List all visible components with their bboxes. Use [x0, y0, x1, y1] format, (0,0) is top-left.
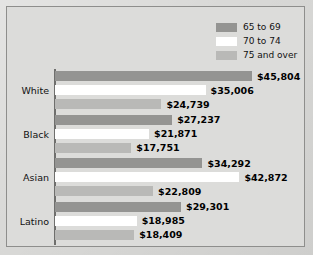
legend-label: 65 to 69 — [243, 22, 281, 33]
chart-legend: 65 to 6970 to 7475 and over — [216, 21, 313, 63]
bar-value-label: $18,409 — [139, 230, 182, 240]
legend-swatch — [216, 23, 237, 32]
bar-value-label: $17,751 — [136, 143, 179, 153]
chart-frame: 65 to 6970 to 7475 and over $45,804$35,0… — [6, 6, 305, 247]
legend-swatch — [216, 51, 237, 60]
bar-value-label: $35,006 — [211, 86, 254, 96]
bar — [55, 230, 134, 240]
legend-label: 75 and over — [243, 50, 297, 61]
bar-value-label: $22,809 — [158, 187, 201, 197]
legend-label: 70 to 74 — [243, 36, 281, 47]
bar-value-label: $45,804 — [257, 72, 300, 82]
bar — [55, 115, 172, 125]
bar-group: $29,301$18,985$18,409 — [55, 202, 308, 240]
legend-item: 65 to 69 — [216, 21, 313, 33]
bar-group: $45,804$35,006$24,739 — [55, 71, 308, 109]
legend-item: 75 and over — [216, 49, 313, 61]
bar-group: $34,292$42,872$22,809 — [55, 158, 308, 196]
bar — [55, 71, 252, 81]
bar — [55, 202, 181, 212]
legend-item: 70 to 74 — [216, 35, 313, 47]
bar — [55, 158, 202, 168]
bar — [55, 216, 137, 226]
bar — [55, 85, 206, 95]
bar — [55, 99, 161, 109]
category-label: Black — [7, 129, 49, 140]
bar — [55, 143, 131, 153]
category-label: White — [7, 85, 49, 96]
bar-value-label: $34,292 — [207, 159, 250, 169]
chart-figure: 65 to 6970 to 7475 and over $45,804$35,0… — [0, 0, 313, 255]
bar-value-label: $27,237 — [177, 115, 220, 125]
bar — [55, 172, 239, 182]
legend-swatch — [216, 37, 237, 46]
bar-value-label: $18,985 — [142, 216, 185, 226]
bar-value-label: $21,871 — [154, 129, 197, 139]
bar-value-label: $24,739 — [166, 100, 209, 110]
plot-area: $45,804$35,006$24,739$27,237$21,871$17,7… — [55, 69, 308, 245]
bar — [55, 129, 149, 139]
bar-value-label: $42,872 — [244, 173, 287, 183]
bar-group: $27,237$21,871$17,751 — [55, 115, 308, 153]
bar-value-label: $29,301 — [186, 202, 229, 212]
category-label: Latino — [7, 216, 49, 227]
bar — [55, 186, 153, 196]
category-label: Asian — [7, 172, 49, 183]
